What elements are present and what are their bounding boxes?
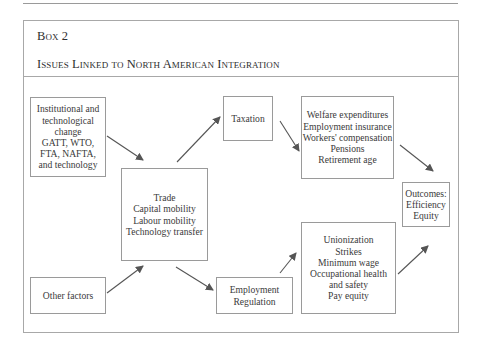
arrow-other-to-trade <box>107 266 143 293</box>
arrow-institutional-to-trade <box>107 136 143 160</box>
arrows-layer <box>0 0 480 350</box>
arrow-trade-to-taxation <box>177 117 220 162</box>
arrow-trade-to-employment <box>176 267 213 290</box>
arrow-labour-to-outcomes <box>398 246 428 274</box>
arrow-taxation-to-welfare <box>280 121 299 151</box>
arrow-employment-to-labour <box>280 253 296 273</box>
arrow-welfare-to-outcomes <box>400 145 433 171</box>
